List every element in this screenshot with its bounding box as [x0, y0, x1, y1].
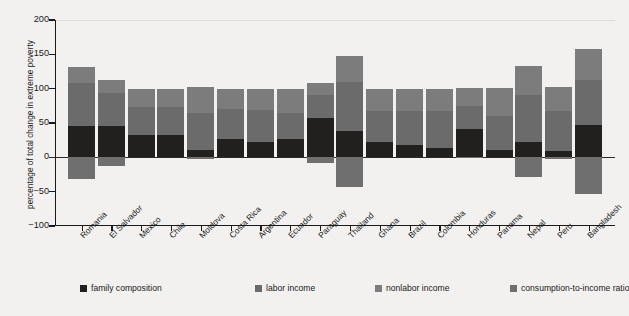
legend-item[interactable]: family composition: [80, 283, 162, 293]
legend-label: consumption-to-income ratio: [521, 283, 629, 293]
bar-segment: [366, 89, 393, 111]
bar-segment: [545, 87, 572, 112]
bar-segment: [336, 131, 363, 158]
legend-swatch-icon: [80, 285, 87, 292]
bar-segment: [515, 66, 542, 95]
bar-group[interactable]: [128, 20, 155, 226]
bar-segment: [426, 148, 453, 157]
bar-segment: [247, 110, 274, 142]
bar-segment: [575, 49, 602, 80]
bar-group[interactable]: [486, 20, 513, 226]
bar-segment: [277, 89, 304, 113]
bar-segment: [128, 89, 155, 107]
bar-segment: [486, 116, 513, 150]
bar-group[interactable]: [575, 20, 602, 226]
bar-segment: [366, 111, 393, 142]
bar-segment: [426, 111, 453, 148]
y-axis-tick: [49, 54, 55, 55]
bar-segment: [307, 157, 334, 162]
bar-segment: [307, 95, 334, 118]
bar-segment: [157, 107, 184, 134]
bar-segment: [456, 106, 483, 129]
bar-segment: [68, 157, 95, 178]
bar-segment: [396, 89, 423, 112]
bar-group[interactable]: [515, 20, 542, 226]
legend-item[interactable]: consumption-to-income ratio: [510, 283, 629, 293]
legend-swatch-icon: [510, 285, 517, 292]
bar-segment: [68, 126, 95, 158]
y-axis-tick-label: −50: [0, 187, 49, 196]
legend-label: family composition: [91, 283, 162, 293]
bar-group[interactable]: [456, 20, 483, 226]
bar-segment: [98, 80, 125, 93]
bar-segment: [515, 157, 542, 176]
bar-segment: [217, 89, 244, 109]
bar-segment: [575, 125, 602, 157]
bar-segment: [515, 95, 542, 142]
bar-segment: [217, 109, 244, 139]
bar-segment: [456, 88, 483, 106]
bar-group[interactable]: [307, 20, 334, 226]
bar-segment: [456, 129, 483, 157]
bar-segment: [396, 145, 423, 157]
legend-label: nonlabor income: [386, 283, 450, 293]
legend-item[interactable]: labor income: [255, 283, 315, 293]
bar-segment: [128, 135, 155, 158]
y-axis-tick: [49, 191, 55, 192]
bar-segment: [486, 150, 513, 158]
bar-segment: [307, 118, 334, 157]
bar-segment: [187, 87, 214, 113]
bar-segment: [187, 113, 214, 150]
bar-segment: [336, 157, 363, 187]
bar-group[interactable]: [545, 20, 572, 226]
bar-segment: [187, 157, 214, 158]
bar-segment: [575, 80, 602, 125]
bar-group[interactable]: [68, 20, 95, 226]
y-axis-line: [55, 20, 56, 226]
bar-segment: [366, 142, 393, 158]
y-axis-tick: [49, 225, 55, 226]
bar-group[interactable]: [426, 20, 453, 226]
bar-segment: [98, 126, 125, 157]
bar-segment: [68, 83, 95, 126]
y-axis-tick-label: 0: [0, 152, 49, 161]
bar-segment: [456, 157, 483, 158]
bar-segment: [486, 88, 513, 116]
bar-segment: [187, 150, 214, 157]
bar-segment: [336, 82, 363, 130]
bar-group[interactable]: [396, 20, 423, 226]
bar-segment: [396, 111, 423, 145]
bar-segment: [515, 142, 542, 157]
y-axis-tick-label: 50: [0, 118, 49, 127]
bar-segment: [157, 89, 184, 108]
bar-group[interactable]: [336, 20, 363, 226]
chart-legend: family compositionlabor incomenonlabor i…: [55, 283, 615, 297]
bar-segment: [247, 89, 274, 110]
legend-swatch-icon: [255, 285, 262, 292]
y-axis-tick-label: 150: [0, 49, 49, 58]
bar-segment: [545, 111, 572, 151]
bar-group[interactable]: [366, 20, 393, 226]
bar-group[interactable]: [217, 20, 244, 226]
y-axis-tick: [49, 88, 55, 89]
bar-group[interactable]: [157, 20, 184, 226]
legend-item[interactable]: nonlabor income: [375, 283, 450, 293]
bar-segment: [545, 157, 572, 159]
bar-group[interactable]: [98, 20, 125, 226]
y-axis-tick-label: 200: [0, 15, 49, 24]
y-axis-tick-label: −100: [0, 221, 49, 230]
bar-segment: [128, 107, 155, 135]
legend-label: labor income: [266, 283, 315, 293]
bar-segment: [277, 139, 304, 157]
bar-segment: [575, 157, 602, 193]
bar-segment: [68, 67, 95, 83]
bar-group[interactable]: [247, 20, 274, 226]
bar-segment: [98, 93, 125, 126]
legend-swatch-icon: [375, 285, 382, 292]
bar-segment: [426, 89, 453, 112]
y-axis-tick: [49, 122, 55, 123]
y-axis-tick: [49, 19, 55, 20]
bar-group[interactable]: [187, 20, 214, 226]
bar-group[interactable]: [277, 20, 304, 226]
